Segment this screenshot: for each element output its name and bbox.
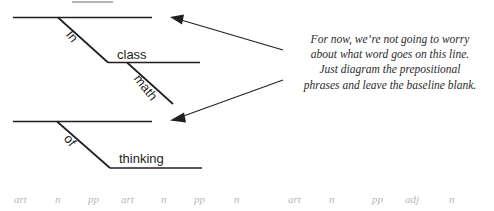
annotation-note-line-4: phrases and leave the baseline blank. — [286, 78, 494, 93]
sentence-diagram-figure: In class math of thinking For now, we’re… — [0, 0, 494, 211]
pos-tag: pp — [372, 193, 383, 205]
pos-tag: adj — [405, 193, 419, 205]
pos-tag: n — [55, 193, 61, 205]
pos-tag: pp — [194, 193, 205, 205]
annotation-note-line-3: Just diagram the prepositional — [286, 62, 494, 77]
pos-tag: n — [449, 193, 455, 205]
callout-arrow-top — [170, 15, 283, 51]
annotation-note: For now, we’re not going to worry about … — [286, 32, 494, 93]
diagram-word-class: class — [117, 48, 147, 61]
pos-tag: art — [288, 193, 301, 205]
pos-tag: pp — [88, 193, 99, 205]
callout-arrow-bottom — [170, 80, 283, 123]
annotation-note-line-1: For now, we’re not going to worry — [286, 32, 494, 47]
pos-tag: art — [121, 193, 134, 205]
pos-tag: n — [329, 193, 335, 205]
pos-tag: n — [234, 193, 240, 205]
annotation-note-line-2: about what word goes on this line. — [286, 47, 494, 62]
pos-tag: n — [161, 193, 167, 205]
pos-tag: art — [14, 193, 27, 205]
diagram-word-thinking: thinking — [119, 152, 164, 165]
part-of-speech-legend: artnppartnppnartnppadjn — [0, 193, 494, 211]
